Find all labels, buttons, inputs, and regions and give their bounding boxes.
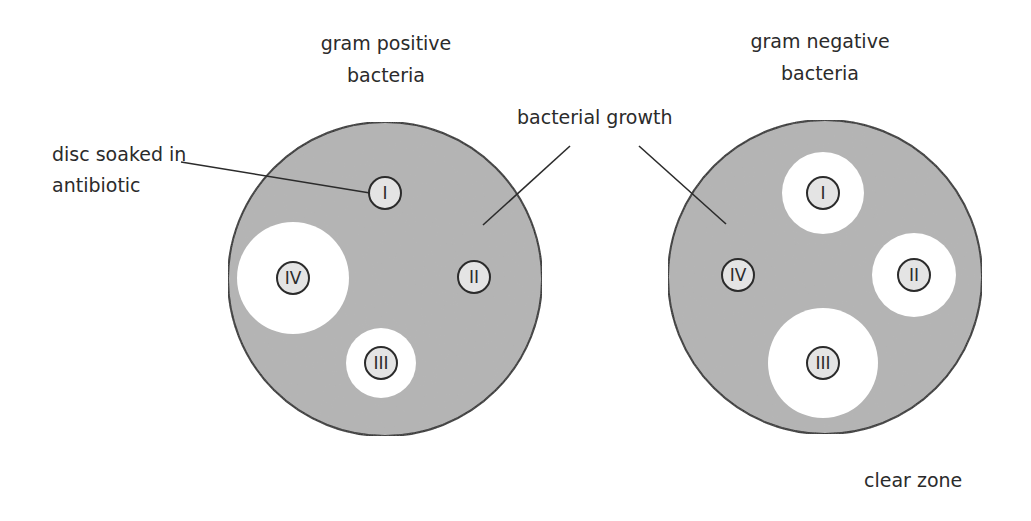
- disc-label: II: [469, 267, 479, 287]
- disc-III: III: [807, 347, 839, 379]
- disc-IV: IV: [277, 262, 309, 294]
- disc-label: I: [820, 183, 825, 203]
- disc-II: II: [458, 261, 490, 293]
- plate-title-line-2: bacteria: [347, 64, 425, 86]
- plate-title-line-1: gram negative: [750, 30, 889, 52]
- plate-title-line-2: bacteria: [781, 62, 859, 84]
- growth-label: bacterial growth: [517, 106, 672, 128]
- disc-IV: IV: [722, 259, 754, 291]
- diagram: I II III IV gram positive bacteria I II: [0, 0, 1031, 521]
- disc-label: III: [815, 353, 830, 373]
- disc-label: II: [909, 265, 919, 285]
- disc-label: I: [382, 183, 387, 203]
- disc-label: IV: [730, 265, 747, 285]
- clear-zone-label: clear zone: [864, 469, 962, 491]
- plate-gram-negative: I II III IV gram negative bacteria: [668, 30, 982, 434]
- disc-label: IV: [285, 268, 302, 288]
- disc-I: I: [807, 177, 839, 209]
- disc-label: III: [373, 353, 388, 373]
- plate-gram-positive: I II III IV gram positive bacteria: [228, 32, 542, 436]
- disc-III: III: [365, 347, 397, 379]
- annotation-clear-zone: clear zone: [864, 469, 962, 491]
- disc-label-line-2: antibiotic: [52, 174, 141, 196]
- disc-I: I: [369, 177, 401, 209]
- plate-title-line-1: gram positive: [321, 32, 452, 54]
- disc-label-line-1: disc soaked in: [52, 143, 186, 165]
- disc-II: II: [898, 259, 930, 291]
